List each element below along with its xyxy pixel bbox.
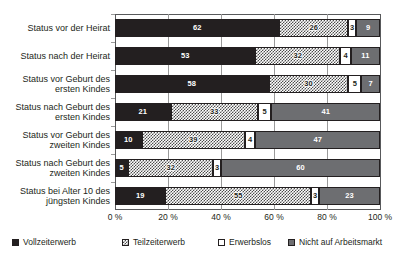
legend-swatch-icon [288,239,295,246]
legend-item-full[interactable]: Vollzeiterwerb [12,238,76,247]
stacked-bar[interactable]: 1039447 [115,131,380,149]
bar-segment-unemployed[interactable]: 5 [258,103,271,121]
bar-segment-inactive[interactable]: 7 [361,75,380,93]
bar-row: 583057 [115,70,380,98]
category-label-line: Status nach Geburt des [0,102,110,113]
bar-segment-full[interactable]: 5 [115,159,128,177]
category-label: Status vor Geburt desersten Kindes [0,74,110,95]
bar-segment-unemployed[interactable]: 5 [348,75,361,93]
category-label: Status nach Geburt desersten Kindes [0,102,110,123]
stacked-bar[interactable]: 583057 [115,75,380,93]
legend-swatch-icon [218,239,225,246]
bar-segment-value: 30 [304,80,313,88]
bar-segment-value: 41 [321,108,330,116]
bar-row: 2133541 [115,98,380,126]
bar-row: 1955323 [115,182,380,210]
bar-segment-value: 7 [369,80,373,88]
category-label: Status bei Alter 10 desjüngsten Kindes [0,186,110,207]
bar-segment-inactive[interactable]: 47 [255,131,380,149]
bar-segment-value: 60 [296,164,305,172]
bar-row: 622639 [115,14,380,42]
bar-segment-value: 19 [136,192,145,200]
bar-segment-inactive[interactable]: 23 [319,187,380,205]
category-label: Status vor Geburt deszweiten Kindes [0,130,110,151]
category-label: Status nach der Heirat [0,51,110,62]
legend-item-inactive[interactable]: Nicht auf Arbeitsmarkt [288,238,382,247]
bar-segment-unemployed[interactable]: 4 [340,47,351,65]
bar-segment-value: 3 [313,192,317,200]
stacked-bar[interactable]: 2133541 [115,103,380,121]
value-axis-labels: 0 %20 %40 %60 %80 %100 % [0,212,410,226]
legend-label: Erwerbslos [229,238,271,247]
value-axis-tick-80: 80 % [317,212,336,222]
value-axis-tick-100: 100 % [368,212,392,222]
bar-segment-inactive[interactable]: 60 [221,159,380,177]
bar-segment-part[interactable]: 39 [142,131,245,149]
bar-segment-value: 53 [181,52,190,60]
bar-segment-unemployed[interactable]: 4 [245,131,256,149]
bar-segment-full[interactable]: 10 [115,131,142,149]
category-label-line: Status nach der Heirat [0,51,110,62]
bar-segment-full[interactable]: 21 [115,103,171,121]
stacked-bar[interactable]: 622639 [115,19,380,37]
bar-segment-part[interactable]: 33 [171,103,258,121]
legend-item-part[interactable]: Teilzeiterwerb [122,238,185,247]
legend-item-unemployed[interactable]: Erwerbslos [218,238,271,247]
bar-row: 5332411 [115,42,380,70]
category-label-line: Status bei Alter 10 des [0,186,110,197]
value-axis-tick-60: 60 % [264,212,283,222]
bar-segment-value: 58 [188,80,197,88]
bar-segment-value: 5 [263,108,267,116]
category-label-line: zweiten Kindes [0,168,110,179]
category-label: Status nach Geburt deszweiten Kindes [0,158,110,179]
bar-segment-part[interactable]: 30 [269,75,349,93]
stacked-bar[interactable]: 5332411 [115,47,380,65]
bar-segment-value: 11 [361,52,369,60]
bar-segment-value: 21 [139,108,148,116]
chart-legend: VollzeiterwerbTeilzeiterwerbErwerbslosNi… [0,238,410,254]
bar-segment-value: 5 [353,80,357,88]
bar-segment-unemployed[interactable]: 3 [348,19,356,37]
bar-segment-value: 3 [350,24,354,32]
bar-segment-value: 10 [124,136,133,144]
bar-segment-unemployed[interactable]: 3 [311,187,319,205]
bar-segment-full[interactable]: 58 [115,75,269,93]
bar-segment-full[interactable]: 53 [115,47,255,65]
bar-segment-value: 55 [234,192,243,200]
category-label-line: jüngsten Kindes [0,196,110,207]
bar-segment-part[interactable]: 32 [128,159,213,177]
legend-label: Teilzeiterwerb [133,238,185,247]
bar-segment-unemployed[interactable]: 3 [213,159,221,177]
gridline-100 [380,14,381,210]
bar-segment-inactive[interactable]: 41 [271,103,380,121]
category-label-line: Status vor Geburt des [0,130,110,141]
bar-segment-part[interactable]: 55 [165,187,311,205]
bar-segment-value: 23 [345,192,354,200]
bar-row: 532360 [115,154,380,182]
category-label-line: Status vor der Heirat [0,23,110,34]
bar-segment-value: 33 [210,108,219,116]
bar-rows: 6226395332411583057213354110394475323601… [115,14,380,210]
bar-segment-inactive[interactable]: 9 [356,19,380,37]
bar-segment-inactive[interactable]: 11 [351,47,380,65]
category-label-line: ersten Kindes [0,112,110,123]
bar-segment-value: 4 [343,52,347,60]
value-axis-tick-20: 20 % [158,212,177,222]
bar-segment-value: 47 [313,136,322,144]
value-axis-tick-0: 0 % [108,212,123,222]
bar-segment-part[interactable]: 26 [279,19,348,37]
category-axis-labels: Status vor der HeiratStatus nach der Hei… [0,14,110,210]
bar-row: 1039447 [115,126,380,154]
value-axis-tick-40: 40 % [211,212,230,222]
stacked-bar[interactable]: 1955323 [115,187,380,205]
bar-segment-value: 62 [193,24,202,32]
bar-segment-value: 3 [215,164,219,172]
bar-segment-full[interactable]: 62 [115,19,279,37]
legend-label: Vollzeiterwerb [23,238,76,247]
stacked-bar[interactable]: 532360 [115,159,380,177]
bar-segment-value: 4 [248,136,252,144]
bar-segment-value: 32 [294,52,303,60]
bar-segment-part[interactable]: 32 [255,47,340,65]
bar-segment-full[interactable]: 19 [115,187,165,205]
bar-segment-value: 5 [119,164,123,172]
